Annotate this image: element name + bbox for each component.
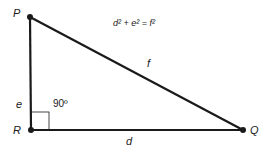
vertex-q-label: Q [250,124,259,136]
vertex-r-dot [28,127,34,133]
side-f-line [30,17,243,130]
pythagorean-equation: d² + e² = f² [113,18,156,28]
side-e-label: e [16,98,22,110]
vertex-q-dot [240,127,246,133]
vertex-p-label: P [13,7,21,19]
right-angle-marker [31,112,49,130]
triangle-diagram: P R Q e d f 90º d² + e² = f² [0,0,270,154]
vertex-p-dot [27,14,33,20]
side-d-label: d [126,135,133,147]
side-f-label: f [147,57,151,69]
right-angle-label: 90º [53,98,68,109]
vertex-r-label: R [13,124,21,136]
